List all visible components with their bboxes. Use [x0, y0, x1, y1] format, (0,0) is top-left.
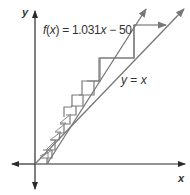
cobweb-zigzag — [40, 114, 71, 164]
axes — [12, 11, 185, 189]
function-rhs-post: − 50 — [106, 23, 132, 37]
function-label: f(x) = 1.031x − 50 — [43, 24, 132, 36]
cobweb-path — [40, 25, 166, 164]
identity-eq: = — [127, 73, 141, 87]
identity-label: y = x — [121, 74, 147, 86]
identity-rhs: x — [141, 73, 147, 87]
x-axis-label: x — [178, 173, 184, 184]
function-rhs-pre: = 1.031 — [59, 23, 100, 37]
y-axis-label: y — [22, 7, 28, 18]
